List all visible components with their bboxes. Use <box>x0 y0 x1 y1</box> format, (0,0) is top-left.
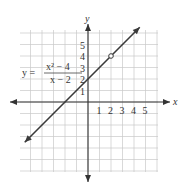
y-axis-arrow-up-icon <box>85 24 91 31</box>
equation-denominator: x − 2 <box>50 74 71 85</box>
x-tick-label: 5 <box>143 105 148 116</box>
x-tick-label: 1 <box>97 105 102 116</box>
y-tick-label: 3 <box>80 63 85 74</box>
equation-numerator: x² − 4 <box>46 61 70 72</box>
x-tick-label: 4 <box>131 105 136 116</box>
axes <box>10 24 170 182</box>
y-tick-label: 4 <box>80 51 85 62</box>
open-circle-hole <box>109 54 114 59</box>
y-axis-label: y <box>84 13 90 24</box>
grid <box>20 30 158 172</box>
x-tick-label: 2 <box>108 105 113 116</box>
y-axis-arrow-down-icon <box>85 175 91 182</box>
x-axis-label: x <box>172 96 178 107</box>
x-axis-arrow-right-icon <box>163 99 170 105</box>
equation-lhs: y = <box>22 67 36 78</box>
x-tick-label: 3 <box>120 105 125 116</box>
x-axis-arrow-left-icon <box>10 99 17 105</box>
graph: 1234512345 y = x² − 4 x − 2 y x <box>0 0 181 188</box>
equation-label: y = x² − 4 x − 2 <box>22 61 82 85</box>
y-tick-label: 5 <box>80 40 85 51</box>
